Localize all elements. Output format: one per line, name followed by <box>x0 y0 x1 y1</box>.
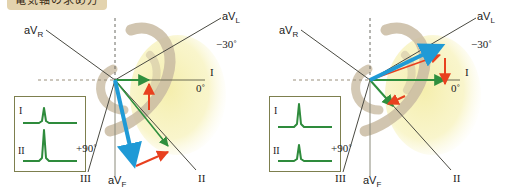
ecg-trace-lead-ii <box>278 145 332 161</box>
axis-label-avf: aVF <box>108 174 126 189</box>
axis-label-avr: aVR <box>279 24 298 39</box>
ecg-inset-label-lead-ii: II <box>18 145 25 156</box>
degree-label-zero: 0˚ <box>196 82 205 94</box>
axis-label-lead-i: I <box>210 66 214 78</box>
axis-label-avf: aVF <box>363 174 381 189</box>
degree-label-plus-ninety: +90˚ <box>331 142 352 154</box>
ecg-inset-label-lead-ii: II <box>273 145 280 156</box>
panel-right-axis-deviation: I II aVR aVL aVF I II III −30˚ 0˚ +90˚ <box>0 0 254 194</box>
axis-label-lead-ii: II <box>453 172 460 184</box>
axis-label-lead-iii: III <box>80 172 91 184</box>
axis-label-lead-i: I <box>465 66 469 78</box>
ecg-trace-lead-ii <box>23 130 77 161</box>
axis-label-avl: aVL <box>222 10 240 25</box>
highlight-wedge <box>385 35 481 155</box>
ecg-traces-left <box>15 97 85 171</box>
panel-left-axis-deviation: I II aVR aVL aVF I II III −30˚ 0˚ +90˚ <box>255 0 509 194</box>
axis-label-lead-iii: III <box>335 172 346 184</box>
projection-vector-lead-ii <box>136 152 168 166</box>
ecg-trace-lead-i <box>23 108 77 123</box>
degree-label-minus-thirty: −30˚ <box>216 38 237 50</box>
figure-canvas: 電気軸の求め方 <box>0 0 509 194</box>
axis-label-lead-ii: II <box>198 172 205 184</box>
ecg-inset-label-lead-i: I <box>274 105 277 116</box>
ecg-inset-box: I II <box>14 96 86 172</box>
ecg-trace-lead-i <box>278 104 332 127</box>
degree-label-zero: 0˚ <box>451 82 460 94</box>
highlight-wedge <box>130 35 226 155</box>
ecg-traces-right <box>270 97 340 171</box>
axis-label-avl: aVL <box>477 10 495 25</box>
axis-line-avr <box>46 30 115 80</box>
axis-line-avr <box>301 30 370 80</box>
degree-label-plus-ninety: +90˚ <box>76 142 97 154</box>
ecg-inset-box: I II <box>269 96 341 172</box>
ecg-inset-label-lead-i: I <box>19 105 22 116</box>
degree-label-minus-thirty: −30˚ <box>471 38 492 50</box>
axis-label-avr: aVR <box>24 24 43 39</box>
